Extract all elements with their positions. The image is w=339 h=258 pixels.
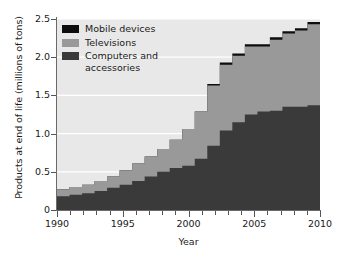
x-tick-mark-minor bbox=[241, 211, 242, 215]
legend-swatch bbox=[62, 52, 79, 60]
legend-label: Computers and accessories bbox=[85, 50, 158, 73]
y-tick-label: 2.5 bbox=[24, 14, 50, 24]
x-tick-mark-minor bbox=[202, 211, 203, 215]
legend-label: Televisions bbox=[85, 37, 136, 49]
y-tick-label: 0 bbox=[24, 205, 50, 215]
x-tick-mark-major bbox=[123, 211, 124, 217]
x-tick-mark-minor bbox=[136, 211, 137, 215]
y-tick-label: 1.0 bbox=[24, 129, 50, 139]
x-tick-mark-minor bbox=[162, 211, 163, 215]
legend-label: Mobile devices bbox=[85, 23, 155, 35]
x-tick-label: 2000 bbox=[167, 218, 211, 229]
x-axis-title: Year bbox=[57, 236, 320, 247]
x-tick-mark-minor bbox=[294, 211, 295, 215]
x-tick-mark-minor bbox=[267, 211, 268, 215]
x-tick-mark-major bbox=[320, 211, 321, 217]
legend-swatch bbox=[62, 39, 79, 47]
chart-figure: Products at end of life (millions of ton… bbox=[0, 0, 339, 258]
chart-legend: Mobile devicesTelevisionsComputers and a… bbox=[62, 23, 212, 75]
y-axis-spine bbox=[56, 17, 57, 211]
x-tick-mark-minor bbox=[228, 211, 229, 215]
y-tick-label: 1.5 bbox=[24, 90, 50, 100]
x-tick-label: 1995 bbox=[101, 218, 145, 229]
x-tick-mark-minor bbox=[149, 211, 150, 215]
x-tick-mark-minor bbox=[70, 211, 71, 215]
x-tick-mark-minor bbox=[307, 211, 308, 215]
x-tick-mark-minor bbox=[175, 211, 176, 215]
legend-swatch bbox=[62, 25, 79, 33]
x-tick-mark-minor bbox=[110, 211, 111, 215]
y-tick-label: 0.5 bbox=[24, 167, 50, 177]
x-tick-mark-minor bbox=[281, 211, 282, 215]
x-tick-mark-major bbox=[254, 211, 255, 217]
x-tick-mark-minor bbox=[96, 211, 97, 215]
legend-item: Computers and accessories bbox=[62, 50, 212, 73]
x-tick-mark-major bbox=[57, 211, 58, 217]
x-tick-mark-minor bbox=[215, 211, 216, 215]
legend-item: Mobile devices bbox=[62, 23, 212, 35]
x-tick-mark-major bbox=[189, 211, 190, 217]
y-tick-label: 2.0 bbox=[24, 52, 50, 62]
x-tick-label: 2005 bbox=[232, 218, 276, 229]
x-tick-mark-minor bbox=[83, 211, 84, 215]
x-tick-label: 2010 bbox=[298, 218, 339, 229]
legend-item: Televisions bbox=[62, 37, 212, 49]
x-tick-label: 1990 bbox=[35, 218, 79, 229]
